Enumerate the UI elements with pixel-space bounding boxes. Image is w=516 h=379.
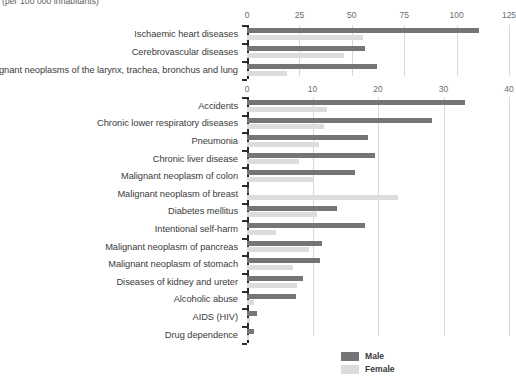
category-label: Diabetes mellitus <box>168 206 238 216</box>
chart-panel-bottom: 010203040 AccidentsChronic lower respira… <box>0 84 515 338</box>
x-tick-label: 50 <box>347 10 356 20</box>
category-label: Cerebrovascular diseases <box>132 47 238 57</box>
category-tick <box>242 132 247 134</box>
bar-female <box>247 265 293 270</box>
bar-female <box>247 195 398 200</box>
bar-female <box>247 53 344 58</box>
bar-male <box>247 206 337 211</box>
bar-male <box>247 135 368 140</box>
chart-row: Malignant neoplasm of pancreas <box>247 238 509 256</box>
x-tick-label: 125 <box>502 10 516 20</box>
category-tick <box>242 79 247 81</box>
legend-label: Female <box>365 364 395 374</box>
bar-male <box>247 100 465 105</box>
bar-male <box>247 329 254 334</box>
bar-male <box>247 241 322 246</box>
category-label: Malignant neoplasms of the larynx, trach… <box>0 65 238 75</box>
chart-row: Malignant neoplasm of stomach <box>247 255 509 273</box>
category-tick <box>242 255 247 257</box>
category-tick <box>242 220 247 222</box>
category-tick <box>242 150 247 152</box>
chart-legend: MaleFemale <box>341 351 395 374</box>
x-axis-top: 0255075100125 <box>247 10 509 22</box>
chart-row: Diabetes mellitus <box>247 203 509 221</box>
bar-female <box>247 283 297 288</box>
category-label: Alcoholic abuse <box>174 294 238 304</box>
x-tick-label: 25 <box>295 10 304 20</box>
bar-female <box>247 124 324 129</box>
chart-row: Alcoholic abuse <box>247 291 509 309</box>
bar-female <box>247 159 299 164</box>
x-tick-label: 30 <box>439 84 448 94</box>
bar-female <box>247 35 363 40</box>
category-tick <box>242 61 247 63</box>
category-label: Malignant neoplasm of colon <box>121 171 238 181</box>
category-label: Drug dependence <box>165 330 238 340</box>
chart-row: Cerebrovascular diseases <box>247 43 509 61</box>
chart-row: Malignant neoplasm of breast <box>247 185 509 203</box>
legend-label: Male <box>365 351 384 361</box>
bar-female <box>247 335 249 340</box>
category-tick <box>242 273 247 275</box>
bar-male <box>247 46 365 51</box>
chart-row: Malignant neoplasms of the larynx, trach… <box>247 61 509 79</box>
bar-male <box>247 153 375 158</box>
bar-male <box>247 311 257 316</box>
category-tick <box>242 43 247 45</box>
chart-row: Malignant neoplasm of colon <box>247 167 509 185</box>
legend-swatch-male <box>341 352 359 361</box>
category-tick <box>242 326 247 328</box>
category-label: Ischaemic heart diseases <box>134 29 238 39</box>
bar-male <box>247 170 355 175</box>
category-label: Intentional self-harm <box>155 224 238 234</box>
bar-female <box>247 212 317 217</box>
category-tick <box>242 185 247 187</box>
category-tick <box>242 167 247 169</box>
chart-row: AIDS (HIV) <box>247 308 509 326</box>
legend-item[interactable]: Male <box>341 351 395 361</box>
x-axis-bottom: 010203040 <box>247 84 509 96</box>
figure-subtitle: (per 100 000 inhabitants) <box>2 0 99 6</box>
category-tick <box>242 25 247 27</box>
chart-panel-top: 0255075100125 Ischaemic heart diseasesCe… <box>0 10 515 80</box>
bar-male <box>247 28 479 33</box>
bar-male <box>247 223 365 228</box>
legend-item[interactable]: Female <box>341 364 395 374</box>
bar-male <box>247 294 296 299</box>
bar-female <box>247 71 287 76</box>
category-label: Chronic liver disease <box>153 154 238 164</box>
category-label: Accidents <box>198 101 238 111</box>
chart-row: Intentional self-harm <box>247 220 509 238</box>
x-tick-label: 10 <box>308 84 317 94</box>
category-label: AIDS (HIV) <box>193 312 238 322</box>
chart-row: Drug dependence <box>247 326 509 344</box>
chart-row: Accidents <box>247 97 509 115</box>
x-tick-label: 75 <box>399 10 408 20</box>
gridline <box>509 25 510 76</box>
category-label: Malignant neoplasm of stomach <box>108 259 238 269</box>
plot-area-top: Ischaemic heart diseasesCerebrovascular … <box>247 25 509 76</box>
category-tick <box>242 343 247 345</box>
bar-female <box>247 230 276 235</box>
category-label: Diseases of kidney and ureter <box>116 277 238 287</box>
bar-female <box>247 142 319 147</box>
chart-row: Diseases of kidney and ureter <box>247 273 509 291</box>
plot-area-bottom: AccidentsChronic lower respiratory disea… <box>247 97 509 336</box>
x-tick-label: 100 <box>450 10 464 20</box>
bar-male <box>247 276 303 281</box>
bar-female <box>247 107 327 112</box>
bar-male <box>247 258 320 263</box>
category-label: Chronic lower respiratory diseases <box>97 118 238 128</box>
bar-female <box>247 300 254 305</box>
bar-female <box>247 177 314 182</box>
bar-female <box>247 318 250 323</box>
x-tick-label: 0 <box>245 84 250 94</box>
x-tick-label: 40 <box>504 84 513 94</box>
bar-male <box>247 118 432 123</box>
chart-row: Chronic lower respiratory diseases <box>247 115 509 133</box>
category-label: Malignant neoplasm of pancreas <box>105 242 238 252</box>
category-tick <box>242 97 247 99</box>
category-label: Pneumonia <box>191 136 238 146</box>
x-tick-label: 0 <box>245 10 250 20</box>
